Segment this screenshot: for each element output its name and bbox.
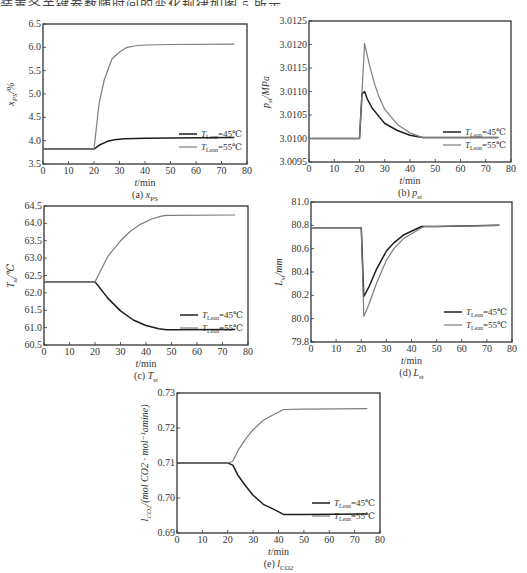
y-tick-label: 5.5 [29, 65, 42, 76]
y-tick-label: 64.5 [25, 200, 43, 211]
y-tick-label: 3.5 [29, 158, 42, 169]
x-axis-label: t/min [177, 546, 380, 557]
chart-caption: (d) Lst [311, 367, 512, 381]
x-tick-label: 20 [355, 163, 365, 174]
y-tick-label: 79.8 [292, 336, 310, 347]
x-tick-label: 80 [242, 165, 252, 176]
y-tick-label: 0.70 [158, 492, 176, 503]
x-tick-label: 30 [115, 165, 125, 176]
x-tick-label: 50 [299, 534, 309, 545]
x-tick-label: 60 [191, 165, 201, 176]
chart-caption: (c) Tst [44, 370, 248, 384]
y-tick-label: 6.0 [29, 41, 42, 52]
y-tick-label: 63.0 [25, 252, 43, 263]
x-tick-label: 50 [432, 343, 442, 354]
y-axis-label: xPS/% [4, 82, 18, 105]
y-axis-label: Tst/℃ [5, 263, 19, 287]
svg-text:TLean=55℃: TLean=55℃ [466, 320, 507, 331]
chart-panel-b: 010203040506070803.00953.01003.01053.011… [309, 21, 511, 162]
y-tick-label: 64.0 [25, 217, 43, 228]
y-tick-label: 3.0100 [280, 133, 308, 144]
x-tick-label: 40 [274, 534, 284, 545]
x-tick-label: 80 [375, 534, 385, 545]
y-tick-label: 80.8 [292, 219, 310, 230]
x-tick-label: 70 [350, 534, 360, 545]
x-tick-label: 60 [457, 343, 467, 354]
plot-frame [311, 202, 512, 342]
x-tick-label: 10 [329, 163, 339, 174]
x-tick-label: 10 [331, 343, 341, 354]
y-tick-label: 80.0 [292, 313, 310, 324]
series-line-55c [311, 225, 499, 316]
x-tick-label: 60 [456, 163, 466, 174]
x-tick-label: 20 [223, 534, 233, 545]
y-axis-label: pst/MPa [260, 76, 274, 108]
y-tick-label: 63.5 [25, 235, 43, 246]
svg-text:TLean=45℃: TLean=45℃ [466, 307, 507, 318]
legend: TLean=45℃TLean=55℃ [179, 129, 242, 153]
x-tick-label: 70 [481, 163, 491, 174]
y-tick-label: 80.2 [292, 289, 310, 300]
chart-caption: (e) lCO2 [177, 558, 380, 572]
y-tick-label: 6.5 [29, 18, 42, 29]
x-tick-label: 60 [324, 534, 334, 545]
y-tick-label: 61.0 [25, 322, 43, 333]
x-tick-label: 10 [64, 165, 74, 176]
y-tick-label: 3.0110 [280, 86, 307, 97]
x-tick-label: 0 [309, 343, 314, 354]
y-tick-label: 3.0105 [280, 109, 308, 120]
x-tick-label: 0 [175, 534, 180, 545]
svg-text:TLean=45℃: TLean=45℃ [202, 310, 243, 321]
y-tick-label: 5.0 [29, 88, 42, 99]
series-line-55c [309, 44, 498, 139]
plot-area: 010203040506070803.00953.01003.01053.011… [309, 21, 511, 162]
chart-panel-d: 0102030405060708079.880.080.280.480.680.… [311, 202, 512, 342]
y-tick-label: 80.4 [292, 266, 310, 277]
legend: TLean=45℃TLean=55℃ [444, 307, 507, 331]
y-tick-label: 0.73 [158, 387, 176, 398]
x-tick-label: 20 [90, 346, 100, 357]
series-line-55c [44, 215, 235, 282]
plot-frame [44, 206, 248, 345]
chart-panel-c: 0102030405060708060.561.061.562.062.563.… [44, 206, 248, 345]
y-tick-label: 0.69 [158, 527, 176, 538]
x-tick-label: 50 [430, 163, 440, 174]
legend: TLean=45℃TLean=55℃ [180, 310, 243, 334]
svg-text:TLean=45℃: TLean=45℃ [201, 129, 242, 140]
svg-text:TLean=55℃: TLean=55℃ [202, 323, 243, 334]
x-axis-label: t/min [44, 358, 248, 369]
series-line-45c [311, 225, 499, 296]
x-tick-label: 40 [407, 343, 417, 354]
chart-caption: (b) pst [309, 187, 511, 201]
x-tick-label: 20 [89, 165, 99, 176]
plot-area: 0102030405060708079.880.080.280.480.680.… [311, 202, 512, 342]
x-tick-label: 40 [405, 163, 415, 174]
y-tick-label: 4.5 [29, 111, 42, 122]
series-line-55c [177, 409, 367, 463]
y-tick-label: 3.0120 [280, 39, 308, 50]
plot-frame [309, 21, 511, 162]
y-tick-label: 81.0 [292, 196, 310, 207]
x-tick-label: 50 [167, 346, 177, 357]
y-axis-label: lCO2/(mol CO2 · mol⁻¹amine) [138, 404, 152, 521]
chart-panel-e: 010203040506070800.690.700.710.720.73TLe… [177, 393, 380, 533]
y-tick-label: 3.0125 [280, 15, 308, 26]
x-tick-label: 0 [307, 163, 312, 174]
x-tick-label: 10 [65, 346, 75, 357]
x-tick-label: 80 [243, 346, 253, 357]
y-tick-label: 0.71 [158, 457, 176, 468]
x-tick-label: 0 [41, 165, 46, 176]
y-axis-label: Lst/mm [272, 258, 286, 285]
y-tick-label: 80.6 [292, 243, 310, 254]
svg-text:TLean=55℃: TLean=55℃ [334, 511, 375, 522]
svg-text:TLean=55℃: TLean=55℃ [201, 142, 242, 153]
y-tick-label: 3.0095 [280, 156, 308, 167]
chart-panel-a: 010203040506070803.54.04.55.05.56.06.5TL… [43, 24, 247, 164]
x-tick-label: 70 [218, 346, 228, 357]
svg-text:TLean=55℃: TLean=55℃ [465, 140, 506, 151]
x-axis-label: t/min [311, 355, 512, 366]
plot-area: 010203040506070803.54.04.55.05.56.06.5TL… [43, 24, 247, 164]
header-text: 装置各关键参数随时间的变化规律如图 5 所示。 [0, 0, 527, 6]
x-tick-label: 0 [42, 346, 47, 357]
x-tick-label: 30 [380, 163, 390, 174]
